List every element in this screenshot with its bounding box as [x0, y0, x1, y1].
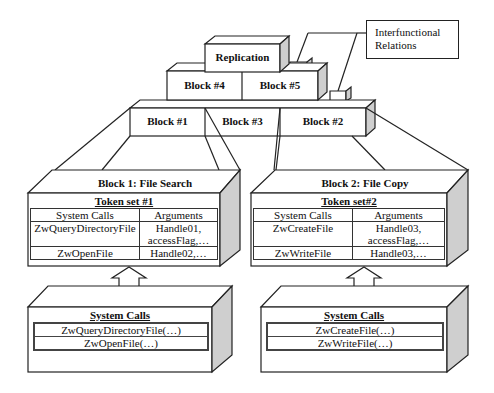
arguments-cell: Handle02,… — [140, 247, 218, 260]
system-calls2-list: ZwCreateFile(…) ZwWriteFile(…) — [266, 322, 444, 351]
col-header-system-calls: System Calls — [31, 209, 140, 222]
args-line: accessFlag,… — [142, 234, 215, 246]
system-calls1-list: ZwQueryDirectoryFile(…) ZwOpenFile(…) — [33, 322, 209, 351]
block1-title: Block 1: File Search — [60, 177, 230, 189]
args-line: Handle01, — [142, 222, 215, 234]
relation-line — [338, 33, 357, 91]
block1-label: Block #1 — [130, 115, 205, 127]
token-set2-title: Token set#2 — [251, 195, 447, 207]
system-call-cell: ZwWriteFile — [254, 247, 353, 260]
col-header-system-calls: System Calls — [254, 209, 353, 222]
col-header-arguments: Arguments — [140, 209, 218, 222]
system-call-cell: ZwOpenFile — [31, 247, 140, 260]
token-set2-table: System Calls Arguments ZwCreateFile Hand… — [253, 208, 445, 260]
col-header-arguments: Arguments — [353, 209, 445, 222]
block2-label: Block #2 — [280, 115, 366, 127]
bottom-row-top-face — [130, 100, 375, 108]
table-header-row: System Calls Arguments — [254, 209, 445, 222]
system-call-cell: ZwCreateFile — [254, 222, 353, 247]
replication-label: Replication — [205, 51, 280, 63]
interfunctional-relations-legend: Interfunctional Relations — [366, 20, 459, 59]
list-item: ZwOpenFile(…) — [34, 337, 208, 351]
list-item: ZwQueryDirectoryFile(…) — [34, 323, 208, 337]
arguments-cell: Handle01,accessFlag,… — [140, 222, 218, 247]
list-item: ZwWriteFile(…) — [267, 337, 443, 351]
legend-line2: Relations — [375, 39, 458, 52]
system-call-cell: ZwQueryDirectoryFile — [31, 222, 140, 247]
block5-label: Block #5 — [242, 79, 318, 91]
legend-line1: Interfunctional — [375, 26, 458, 39]
args-line: Handle03, — [355, 222, 442, 234]
block2-title: Block 2: File Copy — [280, 177, 450, 189]
token-set1-title: Token set #1 — [28, 195, 220, 207]
table-header-row: System Calls Arguments — [31, 209, 218, 222]
arguments-cell: Handle03,… — [353, 247, 445, 260]
token-set1-table: System Calls Arguments ZwQueryDirectoryF… — [30, 208, 218, 260]
system-calls2-title: System Calls — [261, 309, 447, 321]
system-calls1-title: System Calls — [28, 309, 212, 321]
relation-line — [297, 33, 308, 62]
args-line: accessFlag,… — [355, 234, 442, 246]
table-row: ZwOpenFile Handle02,… — [31, 247, 218, 260]
list-item: ZwCreateFile(…) — [267, 323, 443, 337]
table-row: ZwWriteFile Handle03,… — [254, 247, 445, 260]
arguments-cell: Handle03,accessFlag,… — [353, 222, 445, 247]
block4-label: Block #4 — [167, 79, 242, 91]
block3-label: Block #3 — [205, 115, 280, 127]
table-row: ZwCreateFile Handle03,accessFlag,… — [254, 222, 445, 247]
table-row: ZwQueryDirectoryFile Handle01,accessFlag… — [31, 222, 218, 247]
